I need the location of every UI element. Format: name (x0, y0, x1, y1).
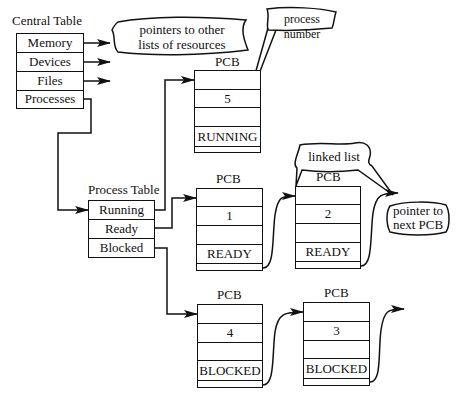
pcb-process-number: 1 (197, 207, 262, 226)
callout-linked-list: linked list (300, 149, 368, 164)
central-table-title: Central Table (12, 14, 82, 28)
central-table-row-processes: Processes (17, 91, 83, 107)
pcb-next-pointer (198, 381, 262, 386)
pcb-next-pointer (197, 264, 262, 269)
pcb-field (198, 305, 262, 324)
pcb-field (198, 343, 262, 361)
pcb-process-number: 5 (195, 90, 260, 108)
callout-resources: pointers to other lists of resources (118, 22, 246, 52)
pcb-field (195, 108, 260, 127)
central-table: Memory Devices Files Processes (16, 33, 84, 109)
pcb-state: BLOCKED (304, 359, 369, 379)
pcb-state: READY (296, 243, 360, 262)
callout-resources-line2: lists of resources (118, 37, 246, 52)
callout-resources-line1: pointers to other (118, 22, 246, 37)
pcb-title: PCB (216, 172, 241, 186)
pcb-field (197, 189, 262, 207)
pcb-next-pointer (296, 262, 360, 267)
process-table-title: Process Table (88, 183, 159, 197)
central-table-row-devices: Devices (17, 53, 83, 72)
process-table-row-running: Running (89, 201, 154, 220)
pcb-field (195, 71, 260, 90)
callout-process-number: process number (270, 12, 334, 42)
process-table-row-ready: Ready (89, 220, 154, 239)
process-table: Running Ready Blocked (88, 200, 155, 258)
central-table-row-files: Files (17, 72, 83, 91)
pcb-running-5: 5 RUNNING (194, 70, 261, 153)
callout-next-pcb-line1: pointer to (388, 204, 448, 218)
pcb-blocked-3: 3 BLOCKED (303, 302, 370, 386)
pcb-title: PCB (316, 170, 341, 184)
pcb-title: PCB (215, 55, 240, 69)
pcb-process-number: 3 (304, 322, 369, 341)
pcb-title: PCB (324, 286, 349, 300)
callout-next-pcb-line2: next PCB (388, 218, 448, 232)
process-table-row-blocked: Blocked (89, 239, 154, 256)
pcb-next-pointer (304, 379, 369, 384)
pcb-field (304, 341, 369, 359)
pcb-ready-1: 1 READY (196, 188, 263, 271)
pcb-state: BLOCKED (198, 361, 262, 381)
pcb-process-number: 4 (198, 324, 262, 343)
pcb-field (304, 303, 369, 322)
pcb-ready-2: 2 READY (295, 186, 361, 269)
central-table-row-memory: Memory (17, 34, 83, 53)
pcb-state: READY (197, 245, 262, 264)
pcb-process-number: 2 (296, 205, 360, 224)
pcb-title: PCB (217, 288, 242, 302)
pcb-field (296, 224, 360, 243)
pcb-field (296, 187, 360, 205)
pcb-state: RUNNING (195, 127, 260, 147)
pcb-field (197, 226, 262, 245)
pcb-blocked-4: 4 BLOCKED (197, 304, 263, 388)
callout-next-pcb: pointer to next PCB (388, 204, 448, 232)
pcb-next-pointer (195, 147, 260, 152)
